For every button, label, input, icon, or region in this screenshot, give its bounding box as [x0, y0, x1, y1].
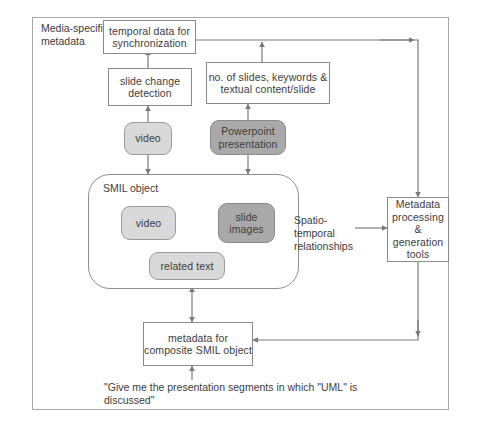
node-powerpoint-presentation-label: Powerpoint presentation — [211, 125, 285, 150]
node-video-top-label: video — [135, 132, 161, 145]
node-powerpoint-presentation: Powerpoint presentation — [210, 120, 286, 155]
spatio-temporal-relationships-label: Spatio-temporal relationships — [294, 214, 358, 253]
diagram-canvas: Media-specific metadata temporal data fo… — [0, 0, 481, 429]
node-slide-stats: no. of slides, keywords & textual conten… — [206, 62, 330, 104]
node-video-inner-label: video — [136, 217, 162, 230]
node-related-text: related text — [149, 252, 225, 280]
query-quote-label: "Give me the presentation segments in wh… — [104, 381, 364, 407]
node-slide-change-detection-label: slide change detection — [109, 75, 191, 100]
node-composite-metadata-label: metadata for composite SMIL object — [144, 332, 252, 357]
node-video-inner: video — [121, 206, 176, 240]
node-slide-images-label: slide images — [219, 211, 274, 236]
node-slide-images: slide images — [218, 203, 275, 243]
node-slide-change-detection: slide change detection — [108, 68, 192, 106]
node-related-text-label: related text — [160, 260, 213, 273]
node-slide-stats-label: no. of slides, keywords & textual conten… — [207, 71, 329, 96]
node-video-top: video — [124, 122, 172, 155]
node-temporal-data: temporal data for synchronization — [103, 20, 196, 54]
node-metadata-tools: Metadata processing & generation tools — [387, 197, 449, 262]
smil-object-title: SMIL object — [103, 182, 158, 194]
node-composite-metadata: metadata for composite SMIL object — [143, 322, 253, 366]
node-temporal-data-label: temporal data for synchronization — [104, 25, 195, 50]
node-metadata-tools-label: Metadata processing & generation tools — [388, 198, 448, 261]
